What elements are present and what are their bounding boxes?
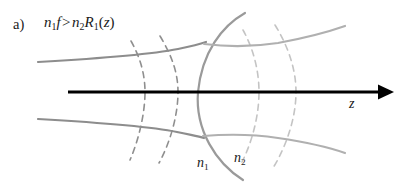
formula-lhs-var: f [56, 14, 60, 30]
wavefront-left-2 [159, 36, 178, 163]
beam-envelope-right [203, 26, 345, 153]
formula-lhs-base: n [44, 14, 52, 30]
index-label-n2: n2 [234, 151, 246, 167]
index-n2-sub: 2 [241, 157, 246, 167]
beam-envelope-lower-right [203, 135, 345, 153]
optical-axis [68, 85, 394, 100]
panel-letter: a) [13, 17, 24, 32]
beam-envelope-lower-left [38, 119, 204, 138]
index-n2-base: n [234, 150, 241, 165]
formula-rhs-base: n [72, 14, 80, 30]
formula-paren-close: ) [109, 14, 114, 30]
wavefront-left-1 [130, 41, 145, 160]
index-n1-base: n [197, 155, 204, 170]
formula-operator: > [61, 14, 72, 30]
optics-figure-panel-a: a) n1f>n2R1(z) z n1 n2 [0, 0, 403, 185]
wavefront-right-1 [242, 30, 259, 162]
beam-envelope-left [38, 42, 206, 138]
axis-label-z: z [349, 97, 354, 111]
beam-envelope-upper-left [38, 42, 206, 62]
formula-rhs-fn: R [85, 14, 94, 30]
index-n1-sub: 1 [204, 162, 209, 172]
index-label-n1: n1 [197, 156, 209, 172]
wavefront-right-2 [273, 25, 296, 168]
condition-formula: n1f>n2R1(z) [44, 15, 114, 32]
optical-axis-arrowhead [378, 85, 394, 100]
